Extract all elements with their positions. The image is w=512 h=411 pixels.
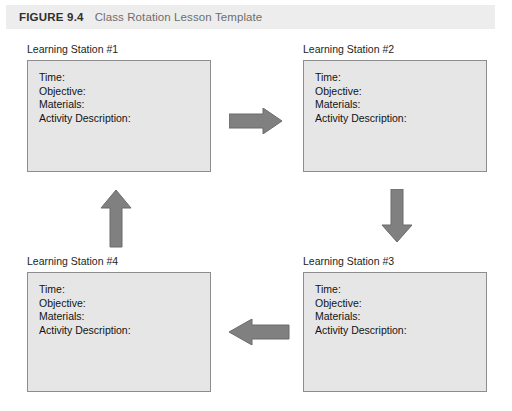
field-materials: Materials: xyxy=(39,310,131,324)
field-activity-description: Activity Description: xyxy=(315,112,407,126)
figure-title: Class Rotation Lesson Template xyxy=(95,11,263,23)
station-label-4: Learning Station #4 xyxy=(27,255,211,268)
station-fields-1: Time: Objective: Materials: Activity Des… xyxy=(39,71,131,125)
field-objective: Objective: xyxy=(39,85,131,99)
field-activity-description: Activity Description: xyxy=(39,112,131,126)
station-fields-4: Time: Objective: Materials: Activity Des… xyxy=(39,283,131,337)
station-box-2: Time: Objective: Materials: Activity Des… xyxy=(303,60,487,172)
field-objective: Objective: xyxy=(315,85,407,99)
arrow-up-icon xyxy=(100,188,132,248)
station-block-2: Learning Station #2 Time: Objective: Mat… xyxy=(303,43,487,172)
station-label-1: Learning Station #1 xyxy=(27,43,211,56)
field-objective: Objective: xyxy=(39,297,131,311)
field-time: Time: xyxy=(39,283,131,297)
figure-number: FIGURE 9.4 xyxy=(19,11,84,23)
field-time: Time: xyxy=(315,71,407,85)
station-fields-3: Time: Objective: Materials: Activity Des… xyxy=(315,283,407,337)
arrow-right-icon xyxy=(229,108,283,134)
arrow-left-icon xyxy=(228,319,290,345)
station-block-1: Learning Station #1 Time: Objective: Mat… xyxy=(27,43,211,172)
station-box-3: Time: Objective: Materials: Activity Des… xyxy=(303,272,487,392)
arrow-down-icon xyxy=(381,189,413,243)
field-materials: Materials: xyxy=(315,310,407,324)
station-label-3: Learning Station #3 xyxy=(303,255,487,268)
station-label-2: Learning Station #2 xyxy=(303,43,487,56)
field-activity-description: Activity Description: xyxy=(315,324,407,338)
field-activity-description: Activity Description: xyxy=(39,324,131,338)
field-materials: Materials: xyxy=(39,98,131,112)
field-time: Time: xyxy=(315,283,407,297)
figure-header-band: FIGURE 9.4 Class Rotation Lesson Templat… xyxy=(6,5,495,29)
field-objective: Objective: xyxy=(315,297,407,311)
station-fields-2: Time: Objective: Materials: Activity Des… xyxy=(315,71,407,125)
field-materials: Materials: xyxy=(315,98,407,112)
field-time: Time: xyxy=(39,71,131,85)
figure-container: FIGURE 9.4 Class Rotation Lesson Templat… xyxy=(0,0,512,411)
station-block-3: Learning Station #3 Time: Objective: Mat… xyxy=(303,255,487,392)
station-box-1: Time: Objective: Materials: Activity Des… xyxy=(27,60,211,172)
station-block-4: Learning Station #4 Time: Objective: Mat… xyxy=(27,255,211,392)
figure-header-text: FIGURE 9.4 Class Rotation Lesson Templat… xyxy=(19,5,262,29)
station-box-4: Time: Objective: Materials: Activity Des… xyxy=(27,272,211,392)
